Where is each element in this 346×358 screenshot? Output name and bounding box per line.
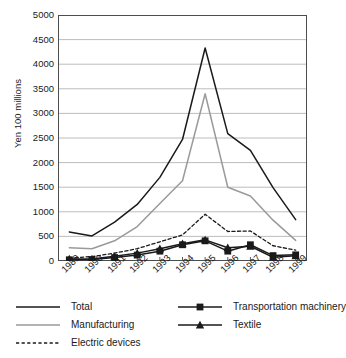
x-axis-tick-label: 1991 (105, 252, 128, 275)
x-axis-tick-label: 1992 (127, 252, 150, 275)
legend-swatch (14, 301, 62, 313)
legend-swatch (176, 319, 224, 331)
legend-label: Textile (233, 320, 261, 330)
x-axis-tick-label: 1996 (218, 252, 241, 275)
legend-label: Electric devices (71, 338, 140, 348)
legend-label: Transportation machinery (233, 302, 346, 312)
x-axis-tick-label: 1997 (240, 252, 263, 275)
x-axis-tick-label: 1998 (263, 252, 286, 275)
legend-label: Total (71, 302, 92, 312)
legend-swatch (14, 319, 62, 331)
x-axis-tick-label: 1994 (173, 252, 196, 275)
x-axis-tick-label: 1989 (59, 252, 82, 275)
x-axis-tick-label: 1990 (82, 252, 105, 275)
legend-swatch (176, 301, 224, 313)
legend-marker-square (197, 304, 204, 311)
x-axis-tick-label: 1995 (195, 252, 218, 275)
legend-label: Manufacturing (71, 320, 134, 330)
legend-swatch (14, 337, 62, 349)
x-axis-tick-label: 1999 (286, 252, 309, 275)
chart-legend: TotalManufacturingElectric devicesTransp… (14, 301, 329, 356)
x-axis-tick-label: 1993 (150, 252, 173, 275)
